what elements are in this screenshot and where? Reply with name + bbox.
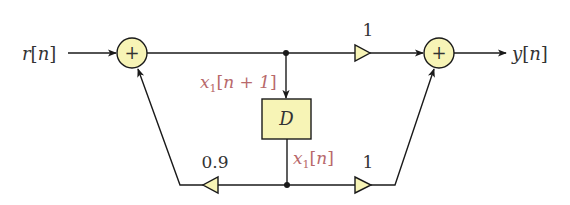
block-diagram: r[n] + 1 + y[n] x1[n + 1] D x1[n] 1: [0, 0, 570, 205]
output-label: y[n]: [511, 43, 548, 64]
wire-to-right-adder: [371, 69, 434, 185]
plus-icon: +: [124, 42, 139, 63]
adder-right: +: [424, 38, 454, 68]
delay-block: D: [262, 99, 311, 139]
gain-top-triangle: [355, 45, 370, 61]
plus-icon: +: [431, 42, 446, 63]
adder-left: +: [117, 38, 147, 68]
delay-label: D: [278, 108, 294, 129]
gain-bottom-right-triangle: [355, 177, 371, 193]
feedback-wire: [138, 69, 203, 185]
input-label: r[n]: [22, 43, 56, 64]
gain-bottom-right-value: 1: [363, 152, 374, 172]
state-next-label: x1[n + 1]: [200, 72, 277, 95]
state-current-label: x1[n]: [293, 148, 334, 171]
gain-feedback-value: 0.9: [201, 152, 228, 172]
gain-feedback-triangle: [203, 177, 218, 193]
gain-top-value: 1: [363, 20, 374, 40]
